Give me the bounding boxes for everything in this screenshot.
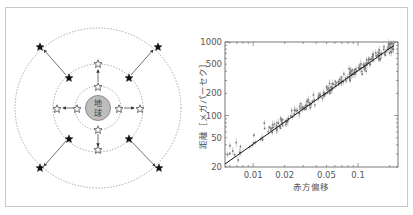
x-tick-labels: 0.010.020.050.1 <box>244 170 365 180</box>
y-axis-title: 距離［メガパーセク］ <box>198 59 208 149</box>
y-tick-label: 50 <box>211 133 222 143</box>
filled-star-icon <box>36 43 44 51</box>
filled-star-icon <box>65 135 73 143</box>
y-tick-label: 1000 <box>200 37 222 47</box>
hollow-star-icon <box>94 60 102 68</box>
y-tick-label: 200 <box>206 88 222 98</box>
figure-canvas: 地 球 <box>0 0 413 215</box>
earth-label-2: 球 <box>94 108 102 118</box>
hubble-chart: 20501002005001000 0.010.020.050.1 赤方偏移 距… <box>198 37 398 192</box>
hollow-star-icon <box>94 126 102 134</box>
x-tick-label: 0.02 <box>275 170 294 180</box>
expansion-diagram: 地 球 <box>15 28 181 188</box>
y-tick-label: 100 <box>206 111 222 121</box>
x-axis-title: 赤方偏移 <box>293 182 329 192</box>
filled-star-icon <box>125 74 133 82</box>
hollow-star-icon <box>115 105 123 113</box>
earth-label-1: 地 <box>94 98 102 108</box>
hollow-star-icon <box>94 83 102 91</box>
filled-star-icon <box>65 74 73 82</box>
x-tick-label: 0.1 <box>351 170 365 180</box>
filled-star-icon <box>154 43 162 51</box>
y-tick-label: 20 <box>211 162 222 172</box>
hollow-star-icon <box>73 105 81 113</box>
hollow-star-icon <box>53 105 61 113</box>
filled-star-icon <box>36 164 44 172</box>
x-tick-label: 0.05 <box>317 170 336 180</box>
x-tick-label: 0.01 <box>244 170 263 180</box>
y-tick-label: 500 <box>206 59 222 69</box>
